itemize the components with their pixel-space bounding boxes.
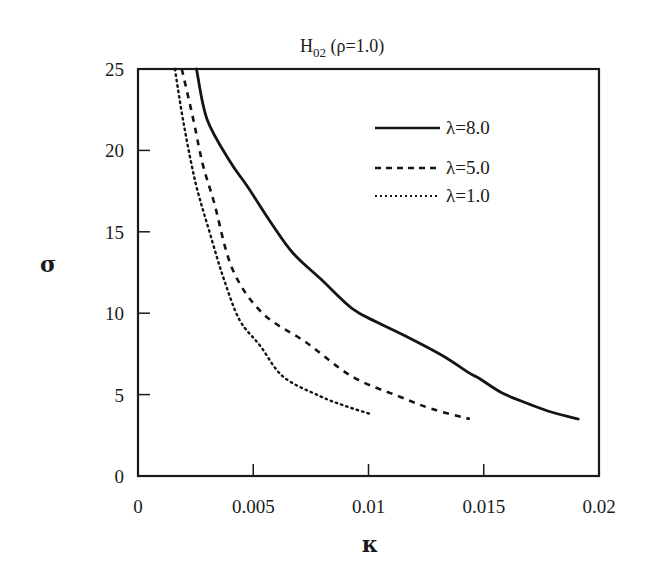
y-tick-label: 20: [105, 140, 124, 161]
legend-label-1: λ=8.0: [446, 117, 490, 138]
x-tick-label: 0.015: [462, 496, 505, 517]
x-axis-ticks: 00.0050.010.0150.02: [133, 464, 615, 517]
chart: H02 (ρ=1.0) 00.0050.010.0150.02 05101520…: [0, 0, 658, 574]
plot-frame: [138, 69, 599, 476]
legend-label-3: λ=1.0: [446, 185, 490, 206]
x-tick-label: 0.01: [352, 496, 385, 517]
legend-label-2: λ=5.0: [446, 157, 490, 178]
y-tick-label: 5: [115, 385, 125, 406]
chart-title: H02 (ρ=1.0): [300, 36, 384, 60]
series-layer: [175, 69, 578, 419]
series-dotted-line: [175, 69, 371, 414]
title-main: H: [300, 36, 313, 56]
series-dashed-line: [182, 69, 470, 419]
y-tick-label: 0: [115, 466, 125, 487]
y-axis-ticks: 0510152025: [105, 59, 150, 487]
title-subscript: 02: [313, 45, 326, 60]
x-tick-label: 0.005: [232, 496, 275, 517]
y-tick-label: 15: [105, 222, 124, 243]
x-axis-label: κ: [362, 531, 379, 557]
title-rest: (ρ=1.0): [326, 36, 384, 57]
y-tick-label: 25: [105, 59, 124, 80]
x-tick-label: 0.02: [582, 496, 615, 517]
series-solid-line: [197, 69, 579, 419]
x-tick-label: 0: [133, 496, 143, 517]
y-axis-label: σ: [40, 251, 56, 277]
y-tick-label: 10: [105, 303, 124, 324]
legend: λ=8.0 λ=5.0 λ=1.0: [375, 117, 490, 206]
